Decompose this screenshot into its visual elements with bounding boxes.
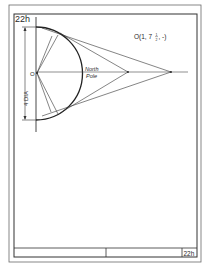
svg-text:1: 1	[156, 33, 158, 37]
svg-text:O(1, 7: O(1, 7	[134, 33, 152, 41]
origin-point	[36, 72, 38, 74]
dimension-label: 4 DIA	[23, 91, 29, 106]
svg-text:, -): , -)	[159, 33, 167, 41]
title-block-sheet-number: 22h	[184, 250, 195, 257]
near-apex-point	[127, 71, 129, 73]
inner-border	[14, 14, 197, 257]
far-apex-point	[170, 71, 172, 73]
north-label: North	[85, 66, 98, 72]
semicircle-arc	[36, 27, 83, 120]
sheet-number-label: 22h	[15, 14, 30, 24]
drawing-sheet: 22h 22h 4 DIA O North Pole	[0, 0, 208, 268]
svg-text:2: 2	[156, 38, 158, 42]
title-block: 22h	[14, 248, 197, 257]
origin-label: O	[30, 71, 35, 77]
origin-rays	[37, 35, 58, 114]
point-coordinate-label: O(1, 7 1 2 , -)	[134, 33, 166, 42]
outer-border	[9, 5, 201, 262]
pole-label: Pole	[86, 73, 97, 79]
